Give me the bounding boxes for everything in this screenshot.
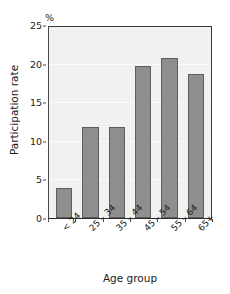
bar-slot [104,27,130,218]
bar-slot [77,27,103,218]
y-axis-tick-label: 15 [30,98,42,108]
bar[interactable] [188,74,204,218]
y-axis-title-container: Participation rate [0,0,22,230]
bar-slot [183,27,209,218]
y-axis-tick-mark [43,26,46,27]
bar-slot [130,27,156,218]
y-axis-tick-label: 10 [30,137,42,147]
bar[interactable] [82,127,98,218]
y-axis-title: Participation rate [8,30,20,190]
y-axis-tick-mark [43,180,46,181]
y-axis-tick-label: 0 [36,214,42,224]
bar-series [49,27,211,218]
y-axis-tick-mark [43,103,46,104]
bar-slot [156,27,182,218]
x-axis-title: Age group [48,272,212,284]
y-axis-tick-label: 20 [30,60,42,70]
y-axis-tick-mark [43,64,46,65]
y-axis-tick-label: 25 [30,21,42,31]
y-axis-tick-mark [43,141,46,142]
bar[interactable] [161,58,177,218]
y-axis-tick-mark [43,219,46,220]
y-axis-tick-labels: 0510152025 [22,26,46,219]
bar[interactable] [135,66,151,218]
x-axis-tick-labels: < 2425 – 3435 – 4445 – 5455 – 6465+ [48,222,212,268]
bar[interactable] [56,188,72,218]
y-axis-tick-label: 5 [36,176,42,186]
plot-area [48,26,212,219]
bar-chart: % Participation rate 0510152025 < 2425 –… [0,0,230,294]
bar-slot [51,27,77,218]
